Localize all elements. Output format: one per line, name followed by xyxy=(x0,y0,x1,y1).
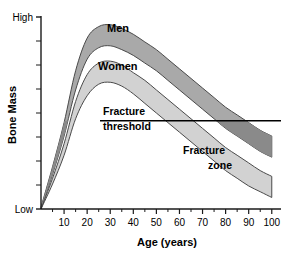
men-band-label: Men xyxy=(107,22,129,34)
y-axis-low-label: Low xyxy=(15,204,34,215)
bone-mass-chart: 102030405060708090100 High Low Bone Mass… xyxy=(0,0,295,259)
x-axis-title: Age (years) xyxy=(137,236,197,248)
fracture-zone-label-line1: Fracture xyxy=(183,144,225,156)
chart-canvas: 102030405060708090100 High Low Bone Mass… xyxy=(0,0,295,259)
x-axis-tick-label: 20 xyxy=(82,217,94,228)
y-axis-ticks xyxy=(36,17,41,209)
fracture-zone-label-line2: zone xyxy=(208,159,232,171)
plot-bands xyxy=(41,25,272,209)
x-axis-tick-label: 70 xyxy=(197,217,209,228)
fracture-threshold-label-line2: threshold xyxy=(103,120,151,132)
x-axis-tick-label: 30 xyxy=(105,217,117,228)
x-axis-tick-label: 80 xyxy=(220,217,232,228)
y-axis-high-label: High xyxy=(12,12,33,23)
x-axis-tick-label: 60 xyxy=(174,217,186,228)
women-band-label: Women xyxy=(98,60,138,72)
x-axis-tick-label: 100 xyxy=(263,217,280,228)
x-axis-tick-label: 50 xyxy=(151,217,163,228)
y-axis-title: Bone Mass xyxy=(6,86,18,144)
fracture-threshold-label-line1: Fracture xyxy=(103,105,145,117)
x-axis-tick-label: 90 xyxy=(243,217,255,228)
x-axis-tick-label: 40 xyxy=(128,217,140,228)
x-axis-tick-labels: 102030405060708090100 xyxy=(59,217,281,228)
x-axis-tick-label: 10 xyxy=(59,217,71,228)
